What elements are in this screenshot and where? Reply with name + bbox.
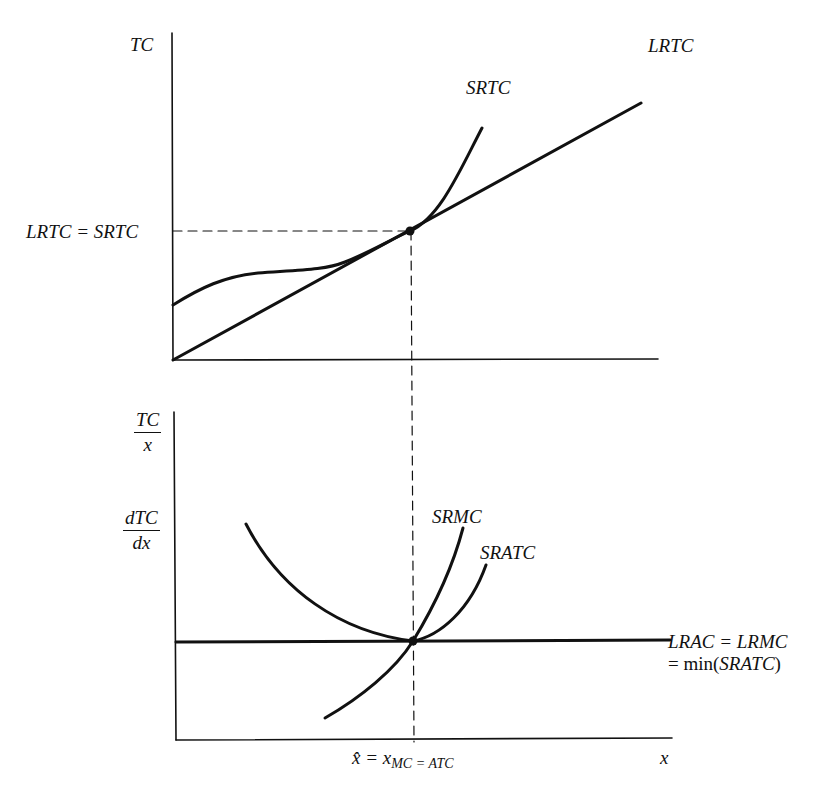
min-sratc-label: = min(SRATC) xyxy=(668,654,781,673)
min-sratc-point xyxy=(409,637,418,646)
sratc-label: SRATC xyxy=(480,543,535,562)
average-cost-axis-label: TC x xyxy=(134,410,161,455)
marginal-cost-numerator: dTC xyxy=(123,508,160,531)
x-hat-label: x̂ = xMC = ATC xyxy=(352,748,454,767)
min-prefix: = min( xyxy=(668,653,719,674)
srmc-label: SRMC xyxy=(432,507,482,526)
top-x-axis xyxy=(173,359,658,360)
sratc-curve xyxy=(246,524,486,641)
x-hat-main: x̂ = x xyxy=(352,747,391,768)
x-axis-label: x xyxy=(660,748,668,767)
x-hat-dashed-line xyxy=(411,231,414,742)
bottom-x-axis xyxy=(176,738,672,740)
top-y-axis-label: TC xyxy=(130,35,153,54)
top-y-axis xyxy=(172,33,173,360)
marginal-cost-denominator: dx xyxy=(123,531,160,553)
min-suffix: ) xyxy=(775,653,781,674)
tangent-level-label: LRTC = SRTC xyxy=(26,222,138,241)
tangency-point xyxy=(406,227,415,236)
lrac-lrmc-label: LRAC = LRMC xyxy=(668,632,787,651)
min-arg: SRATC xyxy=(719,653,774,674)
average-cost-numerator: TC xyxy=(134,410,161,433)
x-hat-subscript: MC = ATC xyxy=(391,756,453,771)
average-cost-denominator: x xyxy=(134,433,161,455)
lrtc-label: LRTC xyxy=(648,36,693,55)
lrac-lrmc-line xyxy=(176,640,670,642)
marginal-cost-axis-label: dTC dx xyxy=(123,508,160,553)
srtc-label: SRTC xyxy=(466,78,510,97)
bottom-y-axis xyxy=(174,412,176,740)
